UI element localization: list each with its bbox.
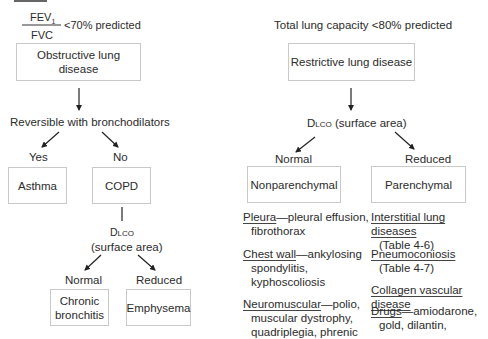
interstitial-lung-diseases-item: Interstitial lung diseases (Table 4-6) [371, 210, 488, 252]
obstructive-threshold: <70% predicted [64, 19, 141, 31]
asthma-box: Asthma [8, 167, 67, 204]
nonparenchymal-box: Nonparenchymal [247, 166, 341, 203]
obstructive-lung-disease-box: Obstructive lung disease [16, 43, 141, 81]
dlco-surface-area-left: (surface area) [91, 241, 163, 253]
restrictive-threshold: Total lung capacity <80% predicted [274, 19, 452, 31]
normal-label-left: Normal [65, 274, 102, 286]
restrictive-lung-disease-box: Restrictive lung disease [288, 43, 415, 81]
emphysema-box: Emphysema [126, 289, 191, 326]
pleura-item: Pleura—pleural effusion, fibrothorax [243, 210, 369, 238]
reversible-question: Reversible with bronchodilators [10, 116, 170, 128]
neuromuscular-item: Neuromuscular—polio, muscular dystrophy,… [243, 297, 360, 339]
fev1-numerator: FEV1 [30, 11, 55, 25]
normal-label-right: Normal [275, 153, 312, 165]
reduced-label-left: Reduced [136, 274, 182, 286]
dlco-label-right: DLCO (surface area) [307, 117, 407, 129]
fvc-denominator: FVC [31, 29, 53, 41]
reduced-label-right: Reduced [405, 153, 451, 165]
copd-box: COPD [92, 167, 151, 204]
yes-label: Yes [29, 151, 48, 163]
parenchymal-box: Parenchymal [371, 166, 466, 203]
dlco-label-left: DLCO [105, 226, 139, 238]
chest-wall-item: Chest wall—ankylosing spondylitis, kypho… [243, 247, 362, 289]
no-label: No [113, 151, 128, 163]
chronic-bronchitis-box: Chronicbronchitis [50, 289, 109, 326]
drugs-item: Drugs—amiodarone, gold, dilantin, [371, 304, 477, 332]
pneumoconiosis-item: Pneumoconiosis (Table 4-7) [371, 247, 455, 275]
